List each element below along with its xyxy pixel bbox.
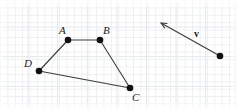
vector-tail-dot	[217, 53, 224, 60]
vector-label-v: v	[194, 29, 199, 39]
vector-v	[0, 0, 237, 110]
geometry-figure: A B C D v	[0, 0, 237, 110]
vector-shaft	[161, 23, 220, 56]
